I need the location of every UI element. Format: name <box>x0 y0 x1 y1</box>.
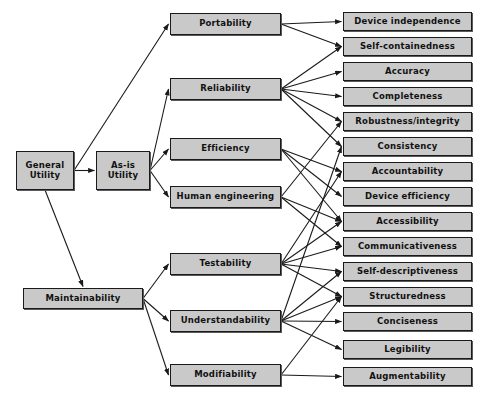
edge-testability-to-accessibility <box>281 222 342 265</box>
edge-maintainability-to-understandability <box>143 299 169 322</box>
edge-portability-to-self-containedness <box>281 24 342 47</box>
edge-modifiability-to-augmentability <box>281 375 342 377</box>
edge-modifiability-to-structuredness <box>281 297 342 376</box>
node-label-robustness-integrity: Robustness/integrity <box>352 117 462 127</box>
node-label-device-efficiency: Device efficiency <box>362 192 453 202</box>
edge-portability-to-device-independence <box>281 22 342 25</box>
edge-as-is-utility-to-reliability <box>150 89 169 171</box>
node-label-augmentability: Augmentability <box>366 372 448 382</box>
node-as-is-utility[interactable]: As-is Utility <box>96 151 150 190</box>
node-accuracy[interactable]: Accuracy <box>343 62 472 81</box>
node-legibility[interactable]: Legibility <box>343 340 472 359</box>
node-robustness-integrity[interactable]: Robustness/integrity <box>343 112 472 131</box>
edge-general-utility-to-maintainability <box>45 190 83 287</box>
node-label-completeness: Completeness <box>370 92 446 102</box>
node-label-consistency: Consistency <box>375 142 441 152</box>
quality-tree-diagram: General UtilityAs-is UtilityMaintainabil… <box>0 0 486 398</box>
node-accountability[interactable]: Accountability <box>343 162 472 181</box>
node-accessibility[interactable]: Accessibility <box>343 212 472 231</box>
node-modifiability[interactable]: Modifiability <box>170 364 281 386</box>
node-label-structuredness: Structuredness <box>366 292 448 302</box>
node-structuredness[interactable]: Structuredness <box>343 287 472 306</box>
edge-efficiency-to-accountability <box>281 149 342 172</box>
node-label-modifiability: Modifiability <box>191 370 260 380</box>
edge-reliability-to-completeness <box>281 89 342 97</box>
node-label-testability: Testability <box>197 259 255 269</box>
node-label-accountability: Accountability <box>369 167 447 177</box>
edge-as-is-utility-to-efficiency <box>150 149 169 171</box>
edge-understandability-to-structuredness <box>281 297 342 322</box>
node-label-accessibility: Accessibility <box>373 217 441 227</box>
node-label-understandability: Understandability <box>178 316 274 326</box>
edge-reliability-to-accuracy <box>281 72 342 90</box>
edge-testability-to-accountability <box>281 172 342 265</box>
node-conciseness[interactable]: Conciseness <box>343 312 472 331</box>
node-communicativeness[interactable]: Communicativeness <box>343 237 472 256</box>
node-general-utility[interactable]: General Utility <box>16 151 74 190</box>
node-augmentability[interactable]: Augmentability <box>343 367 472 386</box>
node-label-general-utility: General Utility <box>23 161 68 181</box>
edge-general-utility-to-portability <box>74 24 169 171</box>
edge-efficiency-to-accessibility <box>281 149 342 222</box>
node-label-portability: Portability <box>196 19 255 29</box>
node-device-independence[interactable]: Device independence <box>343 12 472 31</box>
edge-understandability-to-self-descriptiveness <box>281 272 342 322</box>
node-human-engineering[interactable]: Human engineering <box>170 186 281 208</box>
node-label-conciseness: Conciseness <box>374 317 441 327</box>
node-label-reliability: Reliability <box>197 84 254 94</box>
edge-efficiency-to-device-efficiency <box>281 149 342 197</box>
edge-understandability-to-consistency <box>281 147 342 322</box>
node-label-as-is-utility: As-is Utility <box>105 161 142 181</box>
edge-reliability-to-self-containedness <box>281 47 342 90</box>
edge-human-engineering-to-accessibility <box>281 197 342 222</box>
node-label-legibility: Legibility <box>381 345 434 355</box>
edge-reliability-to-robustness-integrity <box>281 89 342 122</box>
edge-testability-to-communicativeness <box>281 247 342 265</box>
node-consistency[interactable]: Consistency <box>343 137 472 156</box>
node-maintainability[interactable]: Maintainability <box>23 288 143 309</box>
edge-testability-to-structuredness <box>281 264 342 297</box>
edge-as-is-utility-to-human-engineering <box>150 171 169 198</box>
node-understandability[interactable]: Understandability <box>170 310 281 332</box>
node-label-device-independence: Device independence <box>351 17 463 27</box>
edge-maintainability-to-modifiability <box>143 299 169 376</box>
node-label-human-engineering: Human engineering <box>174 192 278 202</box>
edge-maintainability-to-testability <box>143 264 169 299</box>
edge-human-engineering-to-communicativeness <box>281 197 342 247</box>
node-completeness[interactable]: Completeness <box>343 87 472 106</box>
edge-reliability-to-consistency <box>281 89 342 147</box>
node-label-self-containedness: Self-containedness <box>357 42 458 52</box>
edge-testability-to-self-descriptiveness <box>281 264 342 272</box>
node-device-efficiency[interactable]: Device efficiency <box>343 187 472 206</box>
node-reliability[interactable]: Reliability <box>170 78 281 100</box>
node-efficiency[interactable]: Efficiency <box>170 138 281 160</box>
edge-human-engineering-to-robustness-integrity <box>281 122 342 198</box>
node-self-descriptiveness[interactable]: Self-descriptiveness <box>343 262 472 281</box>
node-label-maintainability: Maintainability <box>42 294 123 304</box>
node-portability[interactable]: Portability <box>170 13 281 35</box>
node-testability[interactable]: Testability <box>170 253 281 275</box>
node-label-self-descriptiveness: Self-descriptiveness <box>354 267 461 277</box>
edge-understandability-to-conciseness <box>281 321 342 322</box>
node-self-containedness[interactable]: Self-containedness <box>343 37 472 56</box>
node-label-efficiency: Efficiency <box>198 144 252 154</box>
edge-understandability-to-legibility <box>281 321 342 350</box>
node-label-accuracy: Accuracy <box>382 67 433 77</box>
node-label-communicativeness: Communicativeness <box>355 242 460 252</box>
